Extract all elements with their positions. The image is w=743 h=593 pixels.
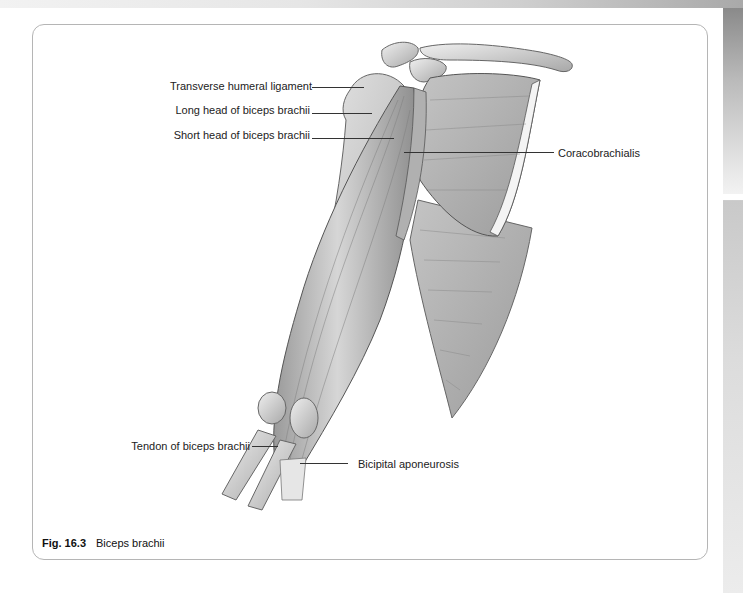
latissimus-dorsi: [410, 200, 532, 418]
leader-coracobrachialis: [404, 152, 554, 153]
leader-short-head: [312, 138, 394, 139]
label-coracobrachialis: Coracobrachialis: [558, 147, 640, 159]
figure-caption: Fig. 16.3Biceps brachii: [42, 537, 165, 549]
label-long-head: Long head of biceps brachii: [170, 104, 310, 116]
label-short-head: Short head of biceps brachii: [160, 129, 310, 141]
leader-transverse-humeral-ligament: [312, 87, 364, 88]
leader-long-head: [312, 113, 372, 114]
label-bicipital-aponeurosis: Bicipital aponeurosis: [358, 458, 459, 470]
figure-title: Biceps brachii: [96, 537, 164, 549]
biceps-brachii-illustration: [0, 0, 743, 593]
leader-tendon: [252, 446, 278, 447]
label-tendon: Tendon of biceps brachii: [110, 440, 250, 452]
label-transverse-humeral-ligament: Transverse humeral ligament: [170, 80, 310, 92]
figure-number: Fig. 16.3: [42, 537, 86, 549]
leader-bicipital-aponeurosis: [300, 463, 348, 464]
